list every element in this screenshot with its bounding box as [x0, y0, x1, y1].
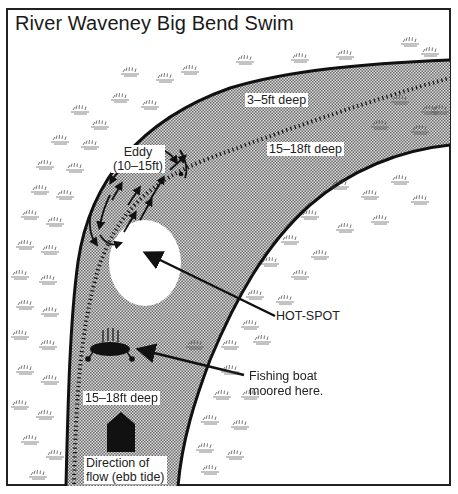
- river-map: [0, 0, 458, 494]
- map-title: River Waveney Big Bend Swim: [15, 12, 294, 35]
- label-deep-upper: 15–18ft deep: [267, 142, 344, 156]
- label-boat-line1: Fishing boat: [249, 369, 323, 384]
- label-boat-line2: moored here.: [249, 384, 323, 399]
- label-eddy-line2: (10–15ft): [113, 159, 163, 173]
- label-flow-line1: Direction of: [86, 456, 165, 470]
- label-flow-direction: Direction of flow (ebb tide): [84, 456, 167, 484]
- label-shallow-depth: 3–5ft deep: [245, 93, 308, 107]
- label-flow-line2: flow (ebb tide): [86, 470, 165, 484]
- label-boat: Fishing boat moored here.: [249, 369, 323, 399]
- label-eddy: Eddy (10–15ft): [111, 145, 165, 173]
- label-deep-lower: 15–18ft deep: [83, 391, 160, 405]
- label-eddy-line1: Eddy: [113, 145, 163, 159]
- hotspot-area: [109, 220, 181, 306]
- label-hotspot: HOT-SPOT: [276, 309, 340, 324]
